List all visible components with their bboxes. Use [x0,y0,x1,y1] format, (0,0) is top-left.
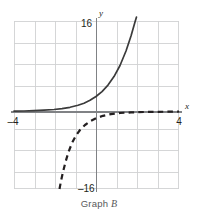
graph-plot: 16 –16 –4 4 x y [0,0,198,216]
caption-text: Graph [81,198,108,209]
x-axis-label: x [184,101,189,111]
y-min-tick-label: –16 [78,183,95,194]
caption-label: B [111,198,117,209]
x-max-tick-label: 4 [176,116,182,127]
y-max-tick-label: 16 [81,18,93,29]
graph-figure: 16 –16 –4 4 x y Graph B [0,0,198,216]
axis-lines [11,18,182,192]
y-axis-label: y [98,8,103,18]
graph-caption: Graph B [0,198,198,209]
x-min-tick-label: –4 [7,116,19,127]
